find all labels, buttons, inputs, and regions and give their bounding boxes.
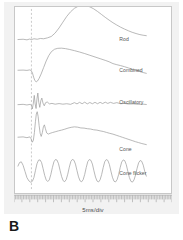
trace-label-combined: Combined xyxy=(119,67,142,73)
trace-label-cone-flicker: Cone flicker xyxy=(119,170,146,176)
trace-rod xyxy=(18,7,146,40)
ruler-ticks-group xyxy=(14,195,172,202)
trace-label-oscillatory: Oscillatory xyxy=(119,99,143,105)
erg-figure-panel: RodCombinedOscillatoryConeCone flicker 5… xyxy=(0,0,183,240)
panel-letter: B xyxy=(9,218,19,234)
time-ruler-ticks xyxy=(14,194,172,205)
trace-labels-group: RodCombinedOscillatoryConeCone flicker xyxy=(119,36,146,176)
plot-frame: RodCombinedOscillatoryConeCone flicker xyxy=(14,6,172,194)
trace-cone xyxy=(18,112,146,145)
chart-card: RodCombinedOscillatoryConeCone flicker 5… xyxy=(4,2,179,214)
trace-paths-group xyxy=(18,7,146,182)
trace-combined xyxy=(18,48,146,82)
erg-traces-plot: RodCombinedOscillatoryConeCone flicker xyxy=(15,7,171,193)
trace-label-rod: Rod xyxy=(119,36,129,42)
time-ruler xyxy=(14,194,172,205)
trace-label-cone: Cone xyxy=(119,146,131,152)
x-axis-caption: 5ms/div xyxy=(14,206,172,214)
